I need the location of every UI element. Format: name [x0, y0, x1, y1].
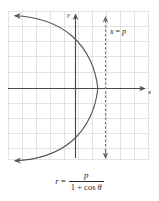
equation-denominator: 1 + cos θ: [69, 182, 104, 192]
polar-conic-figure: y x x = p r = p 1 + cos θ: [0, 0, 159, 201]
denominator-lead: 1 + cos: [71, 182, 98, 192]
grid-lines: [9, 11, 149, 160]
denominator-angle: θ: [98, 182, 102, 192]
directrix-label-equals: =: [114, 27, 123, 36]
parabola-lower-branch: [15, 89, 98, 161]
directrix-label: x = p: [110, 27, 126, 36]
directrix-label-value: p: [122, 27, 126, 36]
equation-caption: r = p 1 + cos θ: [0, 171, 159, 192]
y-axis-label: y: [67, 11, 70, 19]
equation-row: r = p 1 + cos θ: [55, 171, 104, 192]
equation-fraction: p 1 + cos θ: [69, 171, 104, 192]
equation-numerator: p: [80, 171, 93, 181]
equation-equals: =: [61, 177, 69, 186]
x-axis-label: x: [148, 88, 151, 96]
